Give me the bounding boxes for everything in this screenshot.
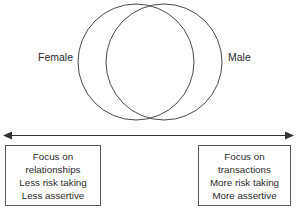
- spectrum-axis: [0, 126, 297, 146]
- trait-box-female: Focus on relationships Less risk taking …: [5, 145, 101, 206]
- diagram-canvas: Female Male Focus on relationships Less …: [0, 0, 297, 213]
- circle-male: [106, 4, 222, 120]
- trait-line: Focus on: [6, 150, 100, 163]
- trait-line: More risk taking: [199, 176, 290, 189]
- circle-label-male: Male: [228, 51, 251, 63]
- circle-label-female: Female: [38, 51, 73, 63]
- circle-female: [78, 4, 194, 120]
- trait-line: Less assertive: [6, 189, 100, 202]
- trait-box-male: Focus on transactions More risk taking M…: [198, 145, 291, 206]
- arrow-head-right-icon: [285, 132, 294, 140]
- arrow-head-left-icon: [3, 132, 12, 140]
- trait-line: Less risk taking: [6, 176, 100, 189]
- venn-diagram-graphic: [0, 0, 297, 130]
- trait-line: More assertive: [199, 189, 290, 202]
- trait-line: transactions: [199, 163, 290, 176]
- trait-line: relationships: [6, 163, 100, 176]
- trait-line: Focus on: [199, 150, 290, 163]
